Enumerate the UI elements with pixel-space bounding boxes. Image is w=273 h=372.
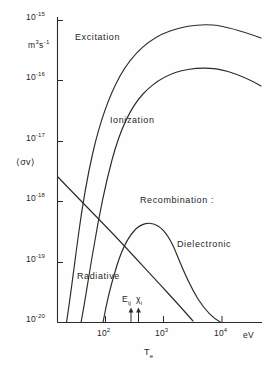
curve-label-ionization: Ionization [110, 116, 155, 125]
label-chi-i: χi [136, 295, 142, 304]
x-axis-ticks [106, 316, 223, 323]
x-axis-unit-label: eV [243, 331, 254, 340]
x-tick-label-3: 104 [214, 329, 227, 338]
y-tick-label-4: 10-18 [26, 194, 45, 203]
label-eij: Eij [122, 295, 131, 304]
y-axis-title: ⟨σv⟩ [16, 158, 35, 167]
x-axis-title: Te [144, 348, 153, 357]
x-tick-label-1: 102 [97, 329, 110, 338]
y-axis-ticks [58, 21, 64, 323]
chi-arrow [136, 308, 141, 323]
curve-label-radiative: Radiative [77, 272, 120, 281]
y-tick-label-6: 10-20 [26, 315, 45, 324]
y-tick-label-5: 10-19 [26, 255, 45, 264]
x-tick-label-2: 103 [155, 329, 168, 338]
curve-label-dielectronic: Dielectronic [177, 240, 231, 249]
curve-label-excitation: Excitation [75, 33, 120, 42]
chart-figure: 10-15 10-16 10-17 10-18 10-19 10-20 102 … [0, 0, 273, 372]
y-tick-label-2: 10-16 [26, 73, 45, 82]
eij-arrow [129, 308, 134, 323]
annotation-recombination-heading: Recombination : [140, 196, 214, 205]
y-axis-unit-label: m3s-1 [28, 41, 50, 50]
y-tick-label-1: 10-15 [26, 13, 45, 22]
y-tick-label-3: 10-17 [26, 134, 45, 143]
